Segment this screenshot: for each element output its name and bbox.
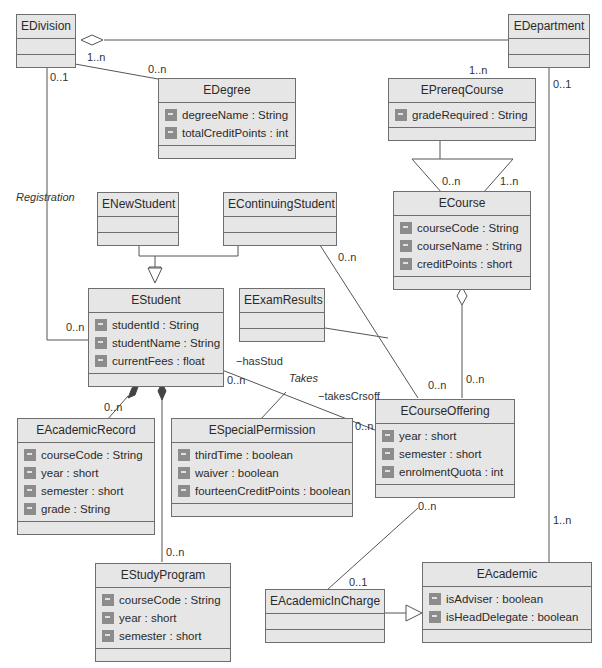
multiplicity-label: 0..1 [50, 71, 68, 83]
attribute: fourteenCreditPoints : boolean [178, 482, 348, 500]
attribute-icon [165, 109, 177, 121]
operations-compartment [159, 146, 295, 158]
attribute-icon [400, 222, 412, 234]
attribute-icon [165, 127, 177, 139]
class-name: EDepartment [509, 15, 589, 39]
attribute-icon [429, 593, 441, 605]
class-eprereqcourse[interactable]: EPrereqCourse gradeRequired : String [388, 78, 536, 141]
attribute-icon [95, 355, 107, 367]
attributes-compartment: degreeName : String totalCreditPoints : … [159, 103, 295, 146]
multiplicity-label: 0..n [148, 63, 166, 75]
class-name: ECourse [394, 192, 530, 216]
class-enewstudent[interactable]: ENewStudent [97, 192, 179, 246]
operations-compartment [509, 55, 589, 67]
attributes-compartment: courseCode : String courseName : String … [394, 216, 530, 277]
attribute: degreeName : String [165, 106, 291, 124]
attribute-icon [178, 449, 190, 461]
attribute-icon [178, 467, 190, 479]
operations-compartment [18, 522, 154, 534]
operations-compartment [98, 233, 178, 245]
attribute-icon [102, 630, 114, 642]
class-name: EDivision [17, 15, 75, 39]
association-name-takes: Takes [289, 372, 318, 384]
multiplicity-label: 0..n [66, 321, 84, 333]
attributes-compartment: courseCode : String year : short semeste… [96, 588, 230, 649]
multiplicity-label: 0..n [442, 175, 460, 187]
class-estudent[interactable]: EStudent studentId : String studentName … [88, 288, 224, 387]
class-eexamresults[interactable]: EExamResults [239, 288, 325, 342]
attribute-icon [178, 485, 190, 497]
class-eacademicincharge[interactable]: EAcademicInCharge [265, 589, 385, 643]
role-label-takescrsoff: −takesCrsoff [318, 390, 380, 402]
attributes-compartment: isAdviser : boolean isHeadDelegate : boo… [423, 587, 591, 630]
attribute: currentFees : float [95, 352, 219, 370]
multiplicity-label: 1..n [500, 175, 518, 187]
operations-compartment [89, 374, 223, 386]
attribute: enrolmentQuota : int [382, 463, 510, 481]
attribute: isAdviser : boolean [429, 590, 587, 608]
class-edivision[interactable]: EDivision [16, 14, 76, 68]
multiplicity-label: 0..n [104, 401, 122, 413]
attribute: year : short [382, 427, 510, 445]
class-ecourseoffering[interactable]: ECourseOffering year : short semester : … [375, 399, 515, 498]
class-name: EPrereqCourse [389, 79, 535, 103]
attribute-icon [395, 109, 407, 121]
attribute-icon [102, 612, 114, 624]
attribute-icon [95, 319, 107, 331]
operations-compartment [240, 329, 324, 341]
attributes-compartment: thirdTime : boolean waiver : boolean fou… [172, 443, 352, 504]
multiplicity-label: 0..n [166, 546, 184, 558]
operations-compartment [423, 630, 591, 642]
multiplicity-label: 0..n [355, 420, 373, 432]
attribute: semester : short [382, 445, 510, 463]
class-ecourse[interactable]: ECourse courseCode : String courseName :… [393, 191, 531, 290]
multiplicity-label: 1..n [87, 51, 105, 63]
attributes-compartment [240, 313, 324, 329]
class-name: EContinuingStudent [224, 193, 336, 217]
class-name: ENewStudent [98, 193, 178, 217]
class-name: EExamResults [240, 289, 324, 313]
class-name: EDegree [159, 79, 295, 103]
attributes-compartment: studentId : String studentName : String … [89, 313, 223, 374]
attribute: semester : short [24, 482, 150, 500]
operations-compartment [224, 233, 336, 245]
role-label-hasstud: −hasStud [236, 355, 283, 367]
attributes-compartment: year : short semester : short enrolmentQ… [376, 424, 514, 485]
attribute-icon [400, 258, 412, 270]
attribute: grade : String [24, 500, 150, 518]
class-edegree[interactable]: EDegree degreeName : String totalCreditP… [158, 78, 296, 159]
class-estudyprogram[interactable]: EStudyProgram courseCode : String year :… [95, 563, 231, 662]
attributes-compartment: gradeRequired : String [389, 103, 535, 128]
attribute-icon [382, 448, 394, 460]
attribute: semester : short [102, 627, 226, 645]
class-edepartment[interactable]: EDepartment [508, 14, 590, 68]
attribute: creditPoints : short [400, 255, 526, 273]
attribute-icon [400, 240, 412, 252]
attribute: thirdTime : boolean [178, 446, 348, 464]
multiplicity-label: 1..n [469, 64, 487, 76]
association-name-registration: Registration [16, 191, 75, 203]
multiplicity-label: 0..1 [349, 576, 367, 588]
class-eacademic[interactable]: EAcademic isAdviser : boolean isHeadDele… [422, 562, 592, 643]
attribute-icon [24, 467, 36, 479]
attributes-compartment [224, 217, 336, 233]
multiplicity-label: 0..n [227, 374, 245, 386]
attribute: year : short [24, 464, 150, 482]
attribute-icon [95, 337, 107, 349]
attribute-icon [102, 594, 114, 606]
multiplicity-label: 0..1 [553, 78, 571, 90]
attributes-compartment [266, 614, 384, 630]
class-eacademicrecord[interactable]: EAcademicRecord courseCode : String year… [17, 418, 155, 535]
operations-compartment [389, 128, 535, 140]
attributes-compartment [17, 39, 75, 55]
attribute: courseName : String [400, 237, 526, 255]
multiplicity-label: 0..n [418, 500, 436, 512]
multiplicity-label: 0..n [428, 379, 446, 391]
attribute-icon [24, 503, 36, 515]
operations-compartment [394, 277, 530, 289]
attribute: studentId : String [95, 316, 219, 334]
class-especialpermission[interactable]: ESpecialPermission thirdTime : boolean w… [171, 418, 353, 517]
attribute: courseCode : String [24, 446, 150, 464]
class-econtinuingstudent[interactable]: EContinuingStudent [223, 192, 337, 246]
attributes-compartment: courseCode : String year : short semeste… [18, 443, 154, 522]
